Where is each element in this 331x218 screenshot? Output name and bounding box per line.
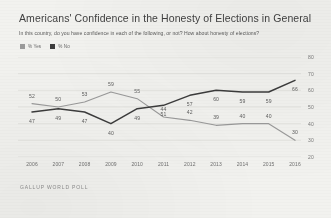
data-label: 39 <box>213 114 219 120</box>
y-axis-tick: 20 <box>308 154 314 160</box>
x-axis-tick: 2015 <box>263 161 275 167</box>
data-label: 52 <box>29 93 35 99</box>
data-label: 59 <box>266 98 272 104</box>
data-label: 42 <box>187 109 193 115</box>
data-label: 53 <box>82 91 88 97</box>
legend-swatch-no <box>50 44 55 49</box>
legend-label-yes: % Yes <box>28 44 41 49</box>
x-axis-tick: 2011 <box>158 161 169 167</box>
x-axis-tick: 2010 <box>131 161 143 167</box>
data-label: 60 <box>213 96 219 102</box>
x-axis-tick: 2013 <box>210 161 222 167</box>
data-label: 47 <box>82 118 88 124</box>
chart-subtitle: In this country, do you have confidence … <box>19 30 259 36</box>
y-axis-tick: 80 <box>308 54 314 60</box>
legend-label-no: % No <box>58 44 70 49</box>
y-axis: 20304050607080 <box>302 52 330 164</box>
data-label: 30 <box>292 129 298 135</box>
x-axis-tick: 2009 <box>105 161 117 167</box>
x-axis-tick: 2007 <box>53 161 65 167</box>
chart-title: Americans' Confidence in the Honesty of … <box>19 12 311 24</box>
data-label: 57 <box>187 101 193 107</box>
x-axis-tick: 2014 <box>237 161 249 167</box>
y-axis-tick: 40 <box>308 121 314 127</box>
data-label: 51 <box>161 111 167 117</box>
plot-area: 5250535955444239404030474947404951576059… <box>18 57 301 157</box>
chart-source: GALLUP WORLD POLL <box>20 184 88 190</box>
x-axis-tick: 2012 <box>184 161 196 167</box>
data-label: 55 <box>134 88 140 94</box>
x-axis-tick: 2016 <box>289 161 301 167</box>
x-axis-tick: 2008 <box>79 161 91 167</box>
data-label: 40 <box>266 113 272 119</box>
y-axis-tick: 50 <box>308 104 314 110</box>
x-axis-tick: 2006 <box>26 161 38 167</box>
data-label: 49 <box>134 115 140 121</box>
line-chart-svg <box>18 57 301 157</box>
data-label: 59 <box>108 81 114 87</box>
legend-item-yes[interactable]: % Yes <box>20 44 41 49</box>
x-axis: 2006200720082009201020112012201320142015… <box>18 160 301 172</box>
y-axis-tick: 60 <box>308 87 314 93</box>
data-label: 66 <box>292 86 298 92</box>
data-label: 59 <box>239 98 245 104</box>
data-label: 49 <box>55 115 61 121</box>
y-axis-tick: 70 <box>308 71 314 77</box>
legend-swatch-yes <box>20 44 25 49</box>
data-label: 40 <box>239 113 245 119</box>
y-axis-tick: 30 <box>308 137 314 143</box>
data-label: 40 <box>108 130 114 136</box>
chart-legend: % Yes % No <box>20 44 70 49</box>
data-label: 50 <box>55 96 61 102</box>
chart-card: Americans' Confidence in the Honesty of … <box>0 0 331 218</box>
legend-item-no[interactable]: % No <box>50 44 70 49</box>
data-label: 47 <box>29 118 35 124</box>
